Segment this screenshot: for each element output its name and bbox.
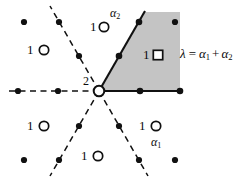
lambda-glyph: λ	[180, 46, 186, 61]
label-alpha1: α1	[151, 136, 161, 148]
highest-weight-equation: λ=α1+α2	[180, 47, 232, 60]
label-alpha2: α2	[110, 7, 120, 19]
weight-circle-alpha1	[151, 121, 160, 130]
alpha1-subscript: 1	[157, 141, 161, 150]
multiplicity-left-upper: 1	[27, 43, 34, 56]
multiplicity-alpha2: 1	[90, 20, 97, 33]
multiplicity-left-lower: 1	[27, 119, 34, 132]
equation-alpha-1-subscript: 1	[206, 52, 210, 62]
multiplicity-alpha1: 1	[139, 119, 146, 132]
weight-markers-layer	[0, 0, 248, 178]
weight-circle-bottom	[93, 151, 102, 160]
weight-circle-origin	[94, 86, 105, 97]
equation-alpha-2-subscript: 2	[228, 52, 232, 62]
weight-circle-alpha2	[99, 22, 108, 31]
multiplicity-origin: 2	[83, 75, 89, 87]
multiplicity-bottom: 1	[81, 149, 88, 162]
root-lattice-figure: 1 1 2 1 1 1 1 α2 α1 λ=α1+α2	[0, 0, 248, 178]
alpha2-subscript: 2	[116, 12, 120, 21]
plus-glyph: +	[212, 46, 219, 61]
equals-glyph: =	[189, 46, 196, 61]
weight-square-lambda	[153, 50, 162, 59]
multiplicity-lambda: 1	[143, 48, 150, 61]
weight-circle-left-upper	[39, 45, 48, 54]
equation-alpha-1: α	[199, 46, 206, 61]
weight-circle-left-lower	[39, 121, 48, 130]
